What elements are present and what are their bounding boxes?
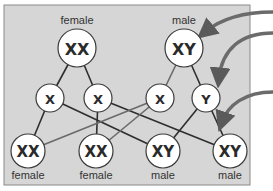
gamete-node-g1: X <box>36 84 64 112</box>
offspring-sex-label: male <box>218 169 242 181</box>
offspring-genotype-text: XY <box>219 143 243 161</box>
parent-node-father: XY <box>165 29 203 67</box>
offspring-genotype-text: XY <box>152 143 176 161</box>
parent-sex-label: male <box>172 14 196 26</box>
gamete-node-g2: X <box>84 84 112 112</box>
parent-node-mother: XX <box>58 29 96 67</box>
offspring-genotype-text: XX <box>16 143 40 161</box>
inheritance-diagram: XXXYXXXYXXXXXYXY femalemalefemalefemalem… <box>0 0 273 191</box>
gamete-genotype-text: X <box>93 92 103 107</box>
gamete-genotype-text: X <box>155 92 165 107</box>
offspring-node-o2: XX <box>79 134 113 168</box>
offspring-genotype-text: XX <box>84 143 108 161</box>
parent-genotype-text: XY <box>172 40 196 59</box>
gamete-node-g4: Y <box>192 84 220 112</box>
offspring-node-o3: XY <box>146 134 180 168</box>
gamete-genotype-text: X <box>45 92 55 107</box>
gamete-node-g3: X <box>146 84 174 112</box>
parent-genotype-text: XX <box>65 40 90 59</box>
offspring-sex-label: male <box>151 169 175 181</box>
offspring-sex-label: female <box>11 169 44 181</box>
gamete-genotype-text: Y <box>200 92 211 107</box>
offspring-node-o4: XY <box>213 134 247 168</box>
parent-sex-label: female <box>60 14 93 26</box>
offspring-node-o1: XX <box>11 134 45 168</box>
offspring-sex-label: female <box>79 169 112 181</box>
